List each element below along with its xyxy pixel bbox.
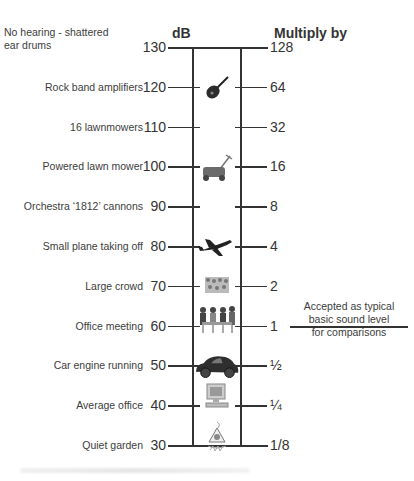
- row-description: No hearing - shatteredear drums: [4, 26, 108, 52]
- faint-footer: [20, 468, 250, 473]
- row-description: Car engine running: [54, 359, 143, 371]
- db-value: 30: [132, 437, 166, 453]
- db-value: 70: [132, 278, 166, 294]
- multiplier-value: 1: [270, 318, 278, 334]
- car-icon: [194, 352, 240, 380]
- meeting-icon: [194, 305, 240, 335]
- db-value: 130: [132, 39, 166, 55]
- row-description: Powered lawn mower: [43, 160, 143, 172]
- multiplier-value: ¼: [270, 397, 282, 413]
- garden-gnome-icon: [194, 420, 240, 454]
- multiplier-value: 64: [270, 79, 286, 95]
- row-description: Rock band amplifiers: [45, 81, 143, 93]
- reference-underline: [290, 326, 408, 328]
- note-line-3: for comparisons: [290, 326, 408, 339]
- db-value: 100: [132, 158, 166, 174]
- row-description: Orchestra ‘1812’ cannons: [24, 200, 143, 212]
- left-tick: [168, 445, 194, 447]
- right-tick: [235, 127, 267, 129]
- db-header: dB: [172, 25, 191, 41]
- multiplier-value: 16: [270, 158, 286, 174]
- multiplier-value: 8: [270, 198, 278, 214]
- computer-icon: [194, 382, 240, 410]
- row-description: Small plane taking off: [43, 240, 143, 252]
- multiplier-value: 1/8: [270, 437, 289, 453]
- reference-note: Accepted as typical basic sound level fo…: [290, 300, 408, 339]
- left-tick: [168, 127, 200, 129]
- left-tick: [168, 206, 200, 208]
- multiplier-value: 32: [270, 119, 286, 135]
- row-description-line: No hearing - shattered: [4, 26, 108, 39]
- guitar-icon: [194, 74, 240, 102]
- lawn-mower-icon: [194, 153, 240, 183]
- row-description-line: ear drums: [4, 39, 108, 52]
- db-value: 90: [132, 198, 166, 214]
- right-tick: [240, 47, 268, 49]
- left-tick: [168, 47, 194, 49]
- airplane-icon: [194, 235, 240, 257]
- crowd-icon: [194, 277, 240, 293]
- multiplier-value: ½: [270, 357, 282, 373]
- db-value: 80: [132, 238, 166, 254]
- db-value: 60: [132, 318, 166, 334]
- right-tick: [240, 445, 268, 447]
- note-line-2: basic sound level: [290, 313, 408, 326]
- db-value: 40: [132, 397, 166, 413]
- db-value: 120: [132, 79, 166, 95]
- db-value: 110: [132, 119, 166, 135]
- right-tick: [235, 206, 267, 208]
- multiplier-value: 128: [270, 39, 293, 55]
- db-value: 50: [132, 357, 166, 373]
- note-line-1: Accepted as typical: [290, 300, 408, 313]
- multiplier-value: 2: [270, 278, 278, 294]
- multiplier-value: 4: [270, 238, 278, 254]
